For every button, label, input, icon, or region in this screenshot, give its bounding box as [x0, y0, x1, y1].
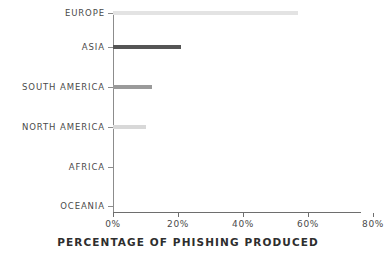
- y-axis-label-north-america: NORTH AMERICA: [22, 122, 105, 132]
- bar-asia: [113, 45, 181, 49]
- x-tick-mark: [178, 213, 179, 217]
- bar-north-america: [113, 125, 146, 129]
- y-axis-label-africa: AFRICA: [69, 162, 105, 172]
- y-tick-mark: [108, 47, 113, 48]
- x-tick-label-40pct: 40%: [223, 219, 263, 229]
- y-tick-mark: [108, 167, 113, 168]
- y-tick-mark: [108, 13, 113, 14]
- x-tick-label-0pct: 0%: [93, 219, 133, 229]
- bar-europe: [113, 11, 298, 15]
- y-axis-label-oceania: OCEANIA: [60, 201, 105, 211]
- x-tick-mark: [243, 213, 244, 217]
- y-axis-label-asia: ASIA: [82, 42, 105, 52]
- y-tick-mark: [108, 206, 113, 207]
- x-tick-mark: [113, 213, 114, 217]
- y-tick-mark: [108, 127, 113, 128]
- x-tick-mark: [373, 213, 374, 217]
- x-axis-title: PERCENTAGE OF PHISHING PRODUCED: [0, 236, 376, 248]
- x-tick-label-80pct: 80%: [353, 219, 388, 229]
- x-tick-mark: [308, 213, 309, 217]
- x-axis-line: [113, 212, 361, 213]
- y-tick-mark: [108, 87, 113, 88]
- plot-area: [113, 0, 375, 212]
- x-tick-label-60pct: 60%: [288, 219, 328, 229]
- y-axis-label-south-america: SOUTH AMERICA: [22, 82, 105, 92]
- y-axis-label-europe: EUROPE: [65, 8, 105, 18]
- bar-south-america: [113, 85, 152, 89]
- x-tick-label-20pct: 20%: [158, 219, 198, 229]
